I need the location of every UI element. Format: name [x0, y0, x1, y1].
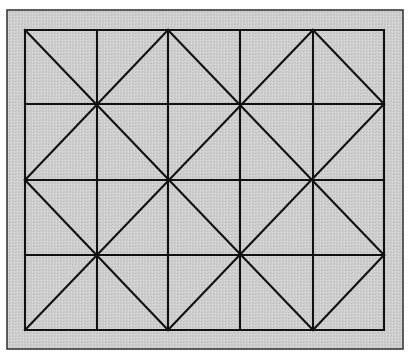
grid-diagram — [0, 0, 419, 358]
